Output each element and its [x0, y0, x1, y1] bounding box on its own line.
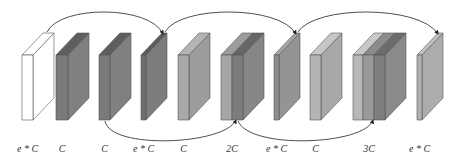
- block-front-face: [353, 55, 363, 120]
- feature-block-b3: [99, 33, 131, 120]
- block-front-face: [363, 55, 374, 120]
- block-front-face: [417, 55, 422, 120]
- block-front-face: [232, 55, 243, 120]
- block-front-face: [56, 55, 68, 120]
- block-front-face: [99, 55, 110, 120]
- block-label: e * C: [133, 143, 154, 154]
- feature-block-b1: [22, 33, 54, 120]
- block-label: 3C: [363, 143, 375, 154]
- feature-block-b6: [221, 33, 264, 120]
- feature-block-b9: [353, 33, 406, 120]
- block-label: C: [101, 143, 108, 154]
- block-label: C: [59, 143, 66, 154]
- top-skip-arrow-b7-to-b10: [298, 12, 438, 34]
- block-front-face: [310, 55, 321, 120]
- feature-block-b2: [56, 33, 89, 120]
- top-skip-arrow-b1-to-b4: [47, 12, 163, 34]
- block-label: C: [180, 143, 187, 154]
- block-label: e * C: [409, 143, 430, 154]
- diagram-canvas: e * CCCe * CC2Ce * CC3Ce * C: [0, 0, 463, 160]
- bottom-skip-arrow-b3-to-b6: [105, 120, 236, 141]
- block-front-face: [22, 55, 33, 120]
- feature-block-b5: [178, 33, 210, 120]
- block-front-face: [274, 55, 279, 120]
- feature-blocks: [22, 33, 443, 120]
- block-front-face: [221, 55, 232, 120]
- diagram-svg: [0, 0, 463, 160]
- bottom-skip-arrow-b6-to-b9: [238, 120, 373, 141]
- feature-block-b4: [141, 33, 167, 120]
- feature-block-b10: [417, 33, 443, 120]
- block-front-face: [178, 55, 189, 120]
- feature-block-b7: [274, 33, 300, 120]
- block-front-face: [374, 55, 385, 120]
- feature-block-b8: [310, 33, 342, 120]
- block-label: C: [312, 143, 319, 154]
- block-label: e * C: [266, 143, 287, 154]
- block-label: 2C: [226, 143, 238, 154]
- block-front-face: [141, 55, 146, 120]
- top-skip-arrow-b4-to-b7: [165, 12, 296, 34]
- block-label: e * C: [17, 143, 38, 154]
